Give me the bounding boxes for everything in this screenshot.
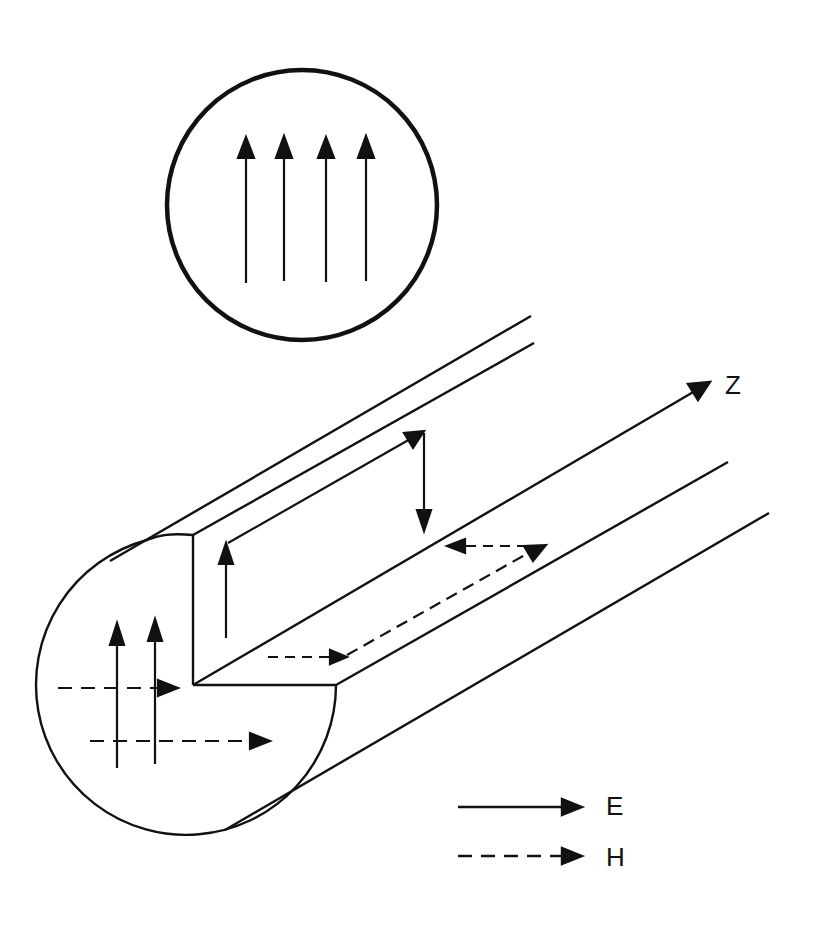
legend-label-e: E: [606, 791, 623, 821]
solid-arrow-icon: [562, 799, 582, 815]
z-axis-label: Z: [725, 370, 741, 400]
z-arrowhead: [688, 382, 710, 400]
inner-top-line: [193, 343, 534, 535]
inset-e-arrows: [238, 136, 374, 283]
legend-item-h: H: [458, 842, 625, 872]
cross-section-fields: [58, 619, 270, 768]
inset-cross-section: [167, 70, 437, 340]
z-axis: Z: [193, 370, 741, 685]
waveguide-body: [36, 316, 769, 835]
legend-item-e: E: [458, 791, 623, 821]
waveguide-field-diagram: Z E H: [0, 0, 815, 926]
dashed-arrow-icon: [562, 848, 582, 864]
legend-label-h: H: [606, 842, 625, 872]
outer-bottom-line: [225, 513, 769, 830]
legend: E H: [458, 791, 625, 872]
inset-circle: [167, 70, 437, 340]
